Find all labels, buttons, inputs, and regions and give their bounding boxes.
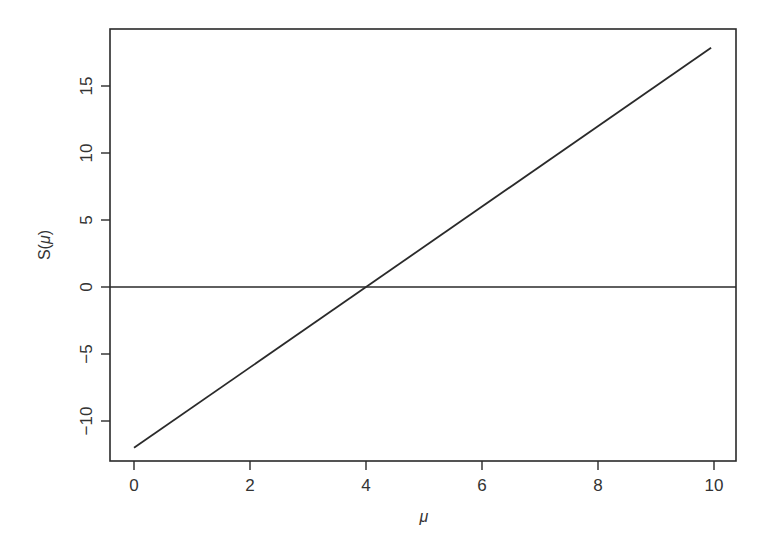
y-axis-title-var: μ [36,235,53,245]
x-tick-label: 0 [129,476,138,495]
x-axis-title: μ [419,508,429,525]
y-tick-label: −10 [77,407,96,436]
x-tick-label: 6 [477,476,486,495]
y-tick-label: 5 [77,215,96,224]
y-tick-label: 0 [77,282,96,291]
data-series [134,48,711,448]
plot-frame [110,29,736,461]
x-tick-label: 10 [705,476,724,495]
series-line [134,48,711,448]
x-tick-label: 2 [245,476,254,495]
y-axis-title-suffix: ) [36,230,53,235]
x-tick-label: 8 [593,476,602,495]
y-axis: −10−5051015 [77,77,110,436]
y-axis-title: S(μ) [36,230,53,260]
x-tick-label: 4 [361,476,370,495]
y-axis-title-prefix: S( [36,243,53,260]
y-tick-label: 15 [77,77,96,96]
y-tick-label: 10 [77,144,96,163]
chart: 0246810 −10−5051015 μ S(μ) [0,0,776,543]
y-tick-label: −5 [77,344,96,363]
x-axis: 0246810 [129,461,723,495]
